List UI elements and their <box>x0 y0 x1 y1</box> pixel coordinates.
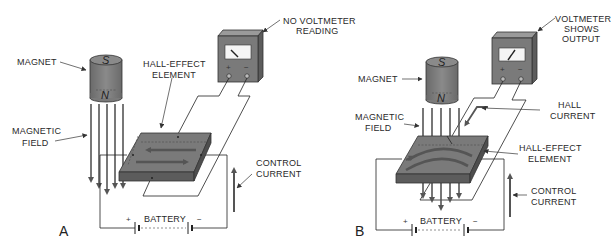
panel-tag-a: A <box>59 223 69 239</box>
panel-b: + − VOLTMETER SHOWS OUTPUT S N MAGNET <box>355 14 611 239</box>
magnet-south-b: S <box>438 56 446 68</box>
battery-plus-a: + <box>126 215 131 224</box>
no-voltmeter-reading-label-line2: READING <box>296 26 338 36</box>
hall-effect-element-a <box>119 133 211 181</box>
voltmeter-a: + − <box>218 30 263 82</box>
control-current-label-a-line1: CONTROL <box>256 158 301 168</box>
panel-a: + − NO VOLTMETER READING S N MAGNET <box>12 16 356 239</box>
magnetic-field-a <box>91 104 123 192</box>
hall-element-label-a-line1: HALL-EFFECT <box>143 59 206 69</box>
magnet-a: S N <box>90 54 122 102</box>
magnet-label-b: MAGNET <box>358 74 398 84</box>
magnetic-field-label-b-line1: MAGNETIC <box>355 112 404 122</box>
meter-minus-b: − <box>518 65 523 74</box>
magnet-south-a: S <box>102 54 110 66</box>
hall-effect-diagram: + − NO VOLTMETER READING S N MAGNET <box>0 0 616 247</box>
meter-plus-b: + <box>500 65 505 74</box>
battery-minus-a: − <box>197 215 202 224</box>
meter-plus-a: + <box>226 63 231 72</box>
battery-b: + − BATTERY <box>403 216 478 236</box>
magnet-label-a: MAGNET <box>17 57 57 67</box>
magnetic-field-label-a-line1: MAGNETIC <box>12 126 61 136</box>
voltmeter-output-label-line2: SHOWS <box>564 24 599 34</box>
control-current-label-b-line2: CURRENT <box>531 197 577 207</box>
panel-tag-b: B <box>355 223 364 239</box>
battery-a: + − BATTERY <box>126 214 202 234</box>
control-current-label-b-line1: CONTROL <box>531 186 576 196</box>
hall-element-label-b-line1: HALL-EFFECT <box>519 143 582 153</box>
hall-current-arrow-b <box>466 107 488 124</box>
control-current-label-a-line2: CURRENT <box>256 169 302 179</box>
battery-plus-b: + <box>403 217 408 226</box>
voltmeter-output-label-line1: VOLTMETER <box>555 14 611 24</box>
magnet-b: S N <box>426 56 458 104</box>
battery-minus-b: − <box>473 217 478 226</box>
no-voltmeter-reading-label-line1: NO VOLTMETER <box>283 16 356 26</box>
hall-element-label-b-line2: ELEMENT <box>528 154 572 164</box>
battery-label-b: BATTERY <box>420 216 462 226</box>
voltmeter-output-label-line3: OUTPUT <box>562 34 601 44</box>
battery-label-a: BATTERY <box>144 214 186 224</box>
hall-element-label-a-line2: ELEMENT <box>152 70 196 80</box>
hall-effect-element-b <box>396 136 488 183</box>
voltmeter-b: + − <box>492 32 537 84</box>
magnet-north-b: N <box>437 92 445 104</box>
hall-current-label-line1: HALL <box>558 100 581 110</box>
magnetic-field-label-a-line2: FIELD <box>22 138 49 148</box>
magnetic-field-label-b-line2: FIELD <box>365 123 392 133</box>
meter-minus-a: − <box>244 63 249 72</box>
magnet-north-a: N <box>101 89 109 101</box>
hall-current-label-line2: CURRENT <box>550 111 596 121</box>
